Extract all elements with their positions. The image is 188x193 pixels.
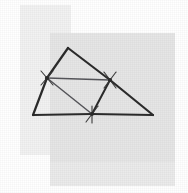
- base-bottom-left-to-mid-bottom: [33, 114, 92, 115]
- geometry-figure: [0, 0, 188, 193]
- node-mid-bottom: [90, 112, 94, 116]
- node-mid-left: [45, 76, 49, 80]
- lower-gray-rectangle: [50, 162, 175, 186]
- node-mid-right: [108, 78, 112, 82]
- figure-canvas: [0, 0, 188, 193]
- base-mid-bottom-to-bottom-right: [92, 114, 153, 115]
- main-gray-rectangle: [50, 33, 175, 162]
